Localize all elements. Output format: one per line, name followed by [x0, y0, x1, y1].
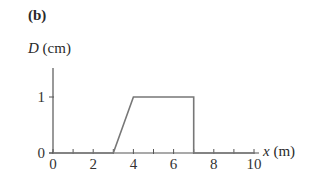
data-line: [53, 97, 254, 153]
x-tick-label: 6: [170, 156, 178, 172]
x-tick-label: 10: [247, 156, 262, 172]
tick-labels: 024681001: [38, 89, 262, 172]
axes: [49, 68, 259, 153]
x-tick-label: 8: [210, 156, 218, 172]
plot-area: 024681001: [0, 0, 315, 184]
y-tick-label: 1: [38, 89, 46, 105]
tick-marks: [49, 97, 254, 154]
y-tick-label: 0: [38, 145, 46, 161]
x-tick-label: 0: [49, 156, 57, 172]
x-tick-label: 2: [89, 156, 97, 172]
x-tick-label: 4: [130, 156, 138, 172]
